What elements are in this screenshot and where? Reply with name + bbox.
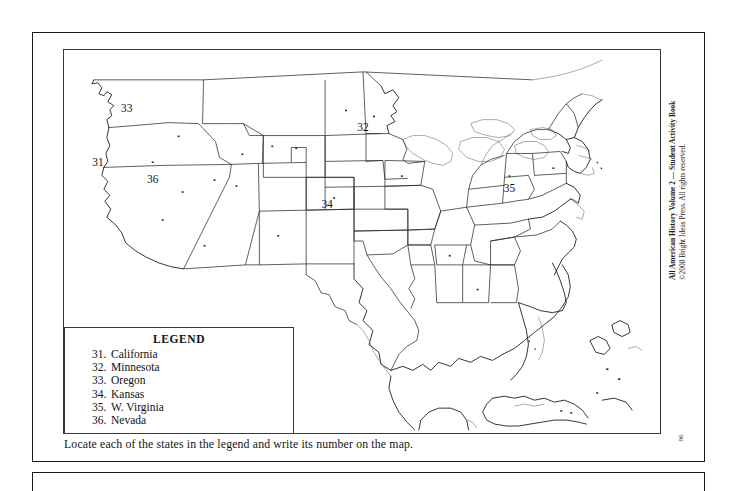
legend-item-number: 31. bbox=[92, 348, 111, 361]
map-state-number-32: 32 bbox=[357, 121, 369, 133]
worksheet-next-box bbox=[32, 472, 705, 491]
legend-box: LEGEND 31.California32.Minnesota33.Orego… bbox=[64, 327, 294, 434]
legend-item-label: W. Virginia bbox=[111, 401, 164, 413]
legend-item-label: Nevada bbox=[111, 414, 146, 426]
copyright-block: All American History Volume 2 — Student … bbox=[668, 0, 696, 40]
copyright-notice: ©2008 Bright Ideas Press. All rights res… bbox=[678, 40, 688, 280]
legend-title: LEGEND bbox=[65, 333, 293, 345]
page-number: 86 bbox=[672, 430, 690, 446]
legend-list: 31.California32.Minnesota33.Oregon34.Kan… bbox=[65, 348, 293, 427]
worksheet-page: 313233343536 LEGEND 31.California32.Minn… bbox=[0, 0, 745, 491]
legend-item: 33.Oregon bbox=[92, 374, 293, 387]
legend-item: 35.W. Virginia bbox=[92, 401, 293, 414]
legend-item-number: 34. bbox=[92, 388, 111, 401]
copyright-title: All American History Volume 2 — Student … bbox=[668, 40, 678, 280]
legend-item-number: 35. bbox=[92, 401, 111, 414]
legend-item-number: 32. bbox=[92, 361, 111, 374]
legend-item-number: 33. bbox=[92, 374, 111, 387]
legend-item-label: Kansas bbox=[111, 388, 144, 400]
map-state-number-34: 34 bbox=[321, 198, 333, 210]
instruction-text: Locate each of the states in the legend … bbox=[64, 437, 413, 452]
legend-item-number: 36. bbox=[92, 414, 111, 427]
map-state-number-36: 36 bbox=[147, 173, 159, 185]
legend-item: 32.Minnesota bbox=[92, 361, 293, 374]
map-state-number-35: 35 bbox=[504, 182, 516, 194]
legend-item: 36.Nevada bbox=[92, 414, 293, 427]
map-state-number-31: 31 bbox=[92, 156, 104, 168]
legend-item-label: Oregon bbox=[111, 374, 146, 386]
legend-item: 31.California bbox=[92, 348, 293, 361]
legend-item-label: Minnesota bbox=[111, 361, 160, 373]
legend-item-label: California bbox=[111, 348, 158, 360]
worksheet-activity-box: 313233343536 LEGEND 31.California32.Minn… bbox=[32, 32, 705, 462]
map-state-number-33: 33 bbox=[121, 102, 133, 114]
legend-item: 34.Kansas bbox=[92, 388, 293, 401]
